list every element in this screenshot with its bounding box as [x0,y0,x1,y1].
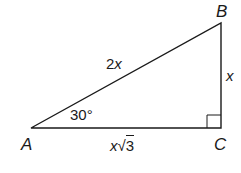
side-ab-variable: x [114,55,122,72]
side-ac-variable: x [110,137,118,154]
right-angle-marker [207,115,221,128]
side-label-ab: 2x [106,56,122,71]
radical-sign: √ [118,137,126,154]
vertex-label-b: B [216,3,227,20]
side-bc-variable: x [226,67,234,84]
vertex-label-a: A [21,136,32,153]
vertex-label-c: C [214,136,226,153]
side-label-bc: x [226,68,234,83]
angle-label-a: 30° [70,107,93,122]
side-label-ac: x√3 [110,138,134,153]
triangle-abc [31,23,221,128]
triangle-diagram: A B C 2x x x√3 30° [0,0,241,173]
radicand: 3 [126,135,134,154]
